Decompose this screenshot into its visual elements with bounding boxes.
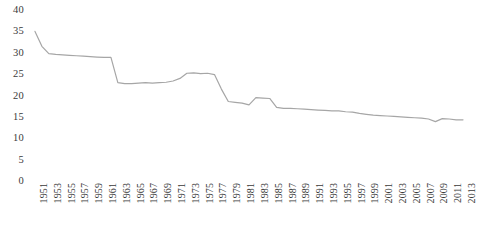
plot-area	[29, 0, 469, 185]
x-tick-label: 1999	[370, 183, 380, 203]
x-tick-label: 1993	[329, 183, 339, 203]
x-tick-label-text: 2011	[453, 183, 463, 203]
x-tick-label-text: 1961	[108, 183, 118, 203]
x-tick-label-text: 1979	[232, 183, 242, 203]
x-tick-label: 1955	[67, 183, 77, 203]
y-axis: 0510152025303540	[0, 0, 24, 233]
x-tick-label: 2013	[467, 183, 477, 203]
x-tick-label-text: 1991	[315, 183, 325, 203]
x-tick-label: 2009	[439, 183, 449, 203]
x-tick-label-text: 1999	[370, 183, 380, 203]
y-tick-label: 5	[0, 155, 24, 166]
x-tick-label: 1965	[136, 183, 146, 203]
x-tick-label-text: 1997	[357, 183, 367, 203]
x-tick-label-text: 1983	[260, 183, 270, 203]
x-tick-label-text: 2009	[439, 183, 449, 203]
x-tick-label: 1951	[39, 183, 49, 203]
x-tick-label: 1971	[177, 183, 187, 203]
x-tick-label-text: 1995	[343, 183, 353, 203]
x-tick-label: 1969	[163, 183, 173, 203]
x-tick-label: 1957	[80, 183, 90, 203]
plot-svg	[29, 0, 469, 185]
y-tick-label: 40	[0, 5, 24, 16]
x-tick-label: 1977	[218, 183, 228, 203]
x-tick-label-text: 2013	[467, 183, 477, 203]
x-tick-label-text: 1989	[301, 183, 311, 203]
x-tick-label: 1981	[246, 183, 256, 203]
x-tick-label: 1995	[343, 183, 353, 203]
x-tick-label-text: 1969	[163, 183, 173, 203]
x-tick-label-text: 1981	[246, 183, 256, 203]
x-tick-label: 1985	[274, 183, 284, 203]
x-tick-label: 1983	[260, 183, 270, 203]
x-tick-label: 1991	[315, 183, 325, 203]
x-tick-label-text: 1963	[122, 183, 132, 203]
x-tick-label: 1961	[108, 183, 118, 203]
y-tick-label: 15	[0, 112, 24, 123]
x-tick-label-text: 1987	[288, 183, 298, 203]
y-tick-label: 25	[0, 69, 24, 80]
x-tick-label: 1997	[357, 183, 367, 203]
x-tick-label-text: 1965	[136, 183, 146, 203]
y-tick-label: 20	[0, 91, 24, 102]
x-tick-label-text: 1953	[53, 183, 63, 203]
x-tick-label-text: 1977	[218, 183, 228, 203]
y-tick-label: 10	[0, 133, 24, 144]
x-tick-label: 1979	[232, 183, 242, 203]
x-tick-label: 1963	[122, 183, 132, 203]
x-tick-label: 2005	[412, 183, 422, 203]
x-tick-label: 2001	[384, 183, 394, 203]
x-tick-label-text: 2007	[426, 183, 436, 203]
x-tick-label-text: 1957	[80, 183, 90, 203]
x-tick-label: 1953	[53, 183, 63, 203]
x-tick-label-text: 1967	[149, 183, 159, 203]
x-tick-label: 1989	[301, 183, 311, 203]
x-tick-label-text: 1955	[67, 183, 77, 203]
x-tick-label: 1975	[205, 183, 215, 203]
x-tick-label-text: 1993	[329, 183, 339, 203]
x-tick-label-text: 1971	[177, 183, 187, 203]
x-tick-label-text: 1951	[39, 183, 49, 203]
x-tick-label: 2003	[398, 183, 408, 203]
x-tick-label-text: 2005	[412, 183, 422, 203]
y-tick-label: 0	[0, 176, 24, 187]
x-tick-label-text: 2001	[384, 183, 394, 203]
x-tick-label: 2011	[453, 183, 463, 203]
data-series-line	[35, 31, 463, 121]
x-tick-label-text: 2003	[398, 183, 408, 203]
x-tick-label: 1973	[191, 183, 201, 203]
x-tick-label: 1959	[94, 183, 104, 203]
x-tick-label: 1967	[149, 183, 159, 203]
x-tick-label-text: 1959	[94, 183, 104, 203]
x-tick-label-text: 1973	[191, 183, 201, 203]
y-tick-label: 30	[0, 48, 24, 59]
x-tick-label-text: 1975	[205, 183, 215, 203]
x-axis: 1951195319551957195919611963196519671969…	[29, 183, 469, 233]
y-tick-label: 35	[0, 26, 24, 37]
x-tick-label-text: 1985	[274, 183, 284, 203]
x-tick-label: 1987	[288, 183, 298, 203]
x-tick-label: 2007	[426, 183, 436, 203]
